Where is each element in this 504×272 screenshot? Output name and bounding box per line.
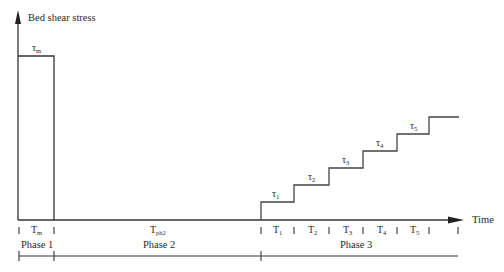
tau-4-label: τ4	[376, 137, 384, 149]
x-axis: Time	[18, 214, 494, 225]
tau-5-label: τ5	[410, 120, 417, 132]
phase1-label: Phase 1	[21, 239, 53, 250]
tau-m-label: τm	[32, 42, 41, 54]
duration-tm-label: Tm	[31, 224, 42, 236]
duration-t4-label: T4	[377, 224, 387, 236]
duration-t5-label: T5	[410, 224, 419, 236]
duration-t1-label: T1	[273, 224, 282, 236]
phase3-label: Phase 3	[340, 239, 372, 250]
phase1-stress-block: τm	[18, 42, 54, 220]
tau-3-label: τ3	[342, 154, 349, 166]
x-axis-label: Time	[472, 214, 494, 225]
tau-1-label: τ1	[272, 188, 279, 200]
duration-tph2-label: Tph2	[150, 224, 166, 236]
y-axis-arrowhead-icon	[15, 10, 21, 24]
bed-shear-stress-diagram: Bed shear stress Time τm τ1 τ2 τ3 τ4 τ5 …	[0, 0, 504, 272]
duration-ticks	[19, 227, 458, 234]
phase-labels: Phase 1 Phase 2 Phase 3	[21, 239, 372, 250]
y-axis-label: Bed shear stress	[28, 12, 96, 23]
x-axis-arrowhead-icon	[448, 217, 464, 224]
duration-t3-label: T3	[343, 224, 352, 236]
tau-2-label: τ2	[308, 171, 315, 183]
duration-t2-label: T2	[308, 224, 317, 236]
y-axis: Bed shear stress	[15, 10, 96, 220]
duration-labels: Tm Tph2 T1 T2 T3 T4 T5	[31, 224, 419, 236]
phase3-staircase: τ1 τ2 τ3 τ4 τ5	[261, 117, 459, 220]
phase-extent-line	[19, 251, 458, 261]
phase2-label: Phase 2	[143, 239, 175, 250]
